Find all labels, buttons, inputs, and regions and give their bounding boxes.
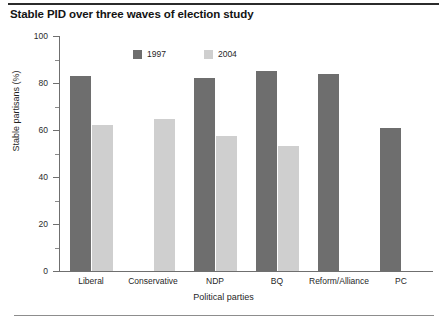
y-tick-mark [53, 271, 59, 272]
y-tick-mark [53, 36, 59, 37]
bar-bq-2004 [278, 146, 299, 271]
legend-label: 2004 [218, 49, 237, 59]
y-tick-label: 20 [0, 219, 48, 229]
bar-ndp-2004 [216, 136, 237, 271]
x-tick-label-pc: PC [395, 276, 407, 286]
legend-item-1997[interactable]: 1997 [133, 49, 166, 59]
x-tick-label-bq: BQ [271, 276, 283, 286]
bar-conservative-2004 [154, 119, 175, 271]
x-axis-line [59, 271, 433, 272]
legend-swatch-icon [133, 50, 142, 59]
y-minor-tick-mark [55, 201, 59, 202]
plot-area [60, 36, 432, 271]
figure-container: Stable PID over three waves of election … [0, 0, 447, 329]
x-tick-label-liberal: Liberal [78, 276, 104, 286]
bar-reform-alliance-1997 [318, 74, 339, 271]
y-tick-mark [53, 83, 59, 84]
y-axis-title: Stable partisans (%) [11, 21, 21, 201]
y-tick-label: 100 [0, 31, 48, 41]
y-minor-tick-mark [55, 248, 59, 249]
legend-swatch-icon [204, 50, 213, 59]
y-tick-label: 60 [0, 125, 48, 135]
y-minor-tick-mark [55, 60, 59, 61]
chart-legend: 19972004 [133, 49, 237, 59]
y-tick-label: 40 [0, 172, 48, 182]
bottom-divider-rule [14, 315, 434, 316]
chart-title: Stable PID over three waves of election … [10, 8, 253, 20]
legend-label: 1997 [147, 49, 166, 59]
bar-bq-1997 [256, 71, 277, 271]
bar-liberal-2004 [92, 125, 113, 271]
bar-ndp-1997 [194, 78, 215, 271]
legend-item-2004[interactable]: 2004 [204, 49, 237, 59]
bar-liberal-1997 [70, 76, 91, 271]
bar-pc-1997 [380, 128, 401, 271]
y-tick-mark [53, 224, 59, 225]
top-divider-rule [8, 3, 439, 5]
y-tick-mark [53, 130, 59, 131]
x-tick-label-ndp: NDP [206, 276, 224, 286]
x-tick-label-reform-alliance: Reform/Alliance [309, 276, 369, 286]
x-axis-title: Political parties [0, 292, 447, 302]
x-tick-label-conservative: Conservative [128, 276, 178, 286]
y-tick-label: 80 [0, 78, 48, 88]
y-minor-tick-mark [55, 107, 59, 108]
y-tick-label: 0 [0, 266, 48, 276]
y-tick-mark [53, 177, 59, 178]
y-minor-tick-mark [55, 154, 59, 155]
